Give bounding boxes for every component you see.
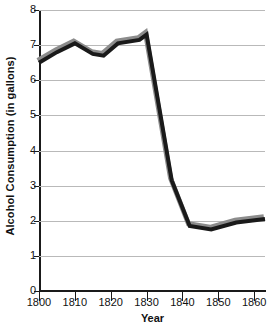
x-axis-tick-label: 1810: [58, 296, 92, 308]
y-axis-title: Alcohol Consumption (in gallons): [0, 0, 20, 292]
x-axis-tick-label: 1830: [130, 296, 164, 308]
x-axis-tick-labels: 1800181018201830184018501860: [0, 296, 272, 310]
line-chart: Alcohol Consumption (in gallons) 0123456…: [0, 0, 272, 334]
series-canvas: [39, 10, 265, 291]
plot-area: [39, 10, 265, 291]
y-axis-title-text: Alcohol Consumption (in gallons): [4, 56, 16, 235]
x-axis-title-text: Year: [141, 312, 164, 324]
x-axis-tick-label: 1800: [22, 296, 56, 308]
x-axis-tick-label: 1850: [201, 296, 235, 308]
x-axis-tick-label: 1860: [237, 296, 271, 308]
series-line: [39, 35, 265, 230]
y-axis-tick-labels: 012345678: [20, 0, 36, 334]
x-axis-title: Year: [39, 312, 266, 324]
x-axis-tick-label: 1840: [165, 296, 199, 308]
x-axis-tick-label: 1820: [94, 296, 128, 308]
